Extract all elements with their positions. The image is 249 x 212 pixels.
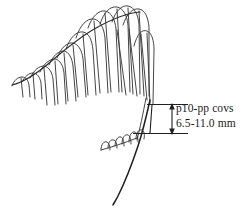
leading-edge-group <box>113 98 150 205</box>
measure-value-text: 6.5-11.0 mm <box>176 116 236 131</box>
feather-s4-shaft <box>55 61 58 104</box>
feather-p10-shaft <box>147 33 150 104</box>
feather-s2-shaft <box>33 74 35 99</box>
bracket-left-connector <box>150 105 152 133</box>
covert-baseline <box>101 138 137 150</box>
measure-label-text: p10-pp covs <box>176 101 234 116</box>
wing-leading-edge <box>113 100 150 205</box>
feather-s3-shaft <box>44 68 47 105</box>
feather-p1 <box>66 32 96 95</box>
wing-diagram-figure: p10-pp covs 6.5-11.0 mm <box>0 0 249 212</box>
feather-p5 <box>112 6 140 94</box>
flight-feathers-group <box>12 6 154 105</box>
feather-s2 <box>22 73 42 99</box>
feather-s5 <box>49 51 76 101</box>
